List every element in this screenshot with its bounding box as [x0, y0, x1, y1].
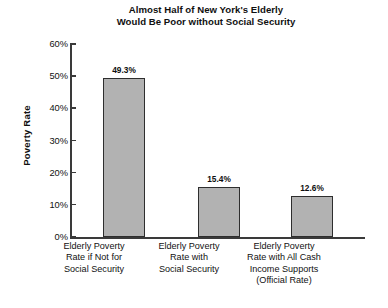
- chart-title-line-1: Almost Half of New York's Elderly: [56, 4, 356, 16]
- bar-2[interactable]: [198, 187, 240, 237]
- y-axis-title: Poverty Rate: [21, 91, 32, 181]
- y-tick-mark-0: [70, 236, 76, 238]
- y-tick-mark-50: [70, 75, 76, 77]
- chart-title-line-2: Would Be Poor without Social Security: [56, 16, 356, 28]
- plot-area: 60% 50% 40% 30% 20% 10% 0% 49.3%: [70, 44, 368, 237]
- y-tick-mark-20: [70, 172, 76, 174]
- y-tick-mark-40: [70, 107, 76, 109]
- y-tick-30: 30%: [34, 135, 76, 147]
- chart-title: Almost Half of New York's Elderly Would …: [56, 4, 356, 27]
- y-tick-label-30: 30%: [49, 135, 68, 147]
- category-3-line-2: Rate with All Cash: [222, 252, 346, 263]
- y-tick-label-60: 60%: [49, 38, 68, 50]
- category-3-line-1: Elderly Poverty: [222, 241, 346, 252]
- y-tick-60: 60%: [34, 38, 76, 50]
- x-axis-line: [70, 237, 365, 239]
- y-tick-label-50: 50%: [49, 70, 68, 82]
- y-tick-10: 10%: [34, 199, 76, 211]
- bar-chart: Almost Half of New York's Elderly Would …: [0, 0, 388, 308]
- bar-value-2: 15.4%: [207, 174, 231, 184]
- y-tick-20: 20%: [34, 167, 76, 179]
- bar-value-1: 49.3%: [112, 65, 136, 75]
- bar-slot-2: 15.4%: [175, 44, 263, 237]
- bar-slot-3: 12.6%: [268, 44, 356, 237]
- y-tick-label-40: 40%: [49, 102, 68, 114]
- bar-3[interactable]: [291, 196, 333, 237]
- y-tick-label-20: 20%: [49, 167, 68, 179]
- y-tick-40: 40%: [34, 102, 76, 114]
- bar-slot-1: 49.3%: [80, 44, 168, 237]
- bar-value-3: 12.6%: [300, 183, 324, 193]
- y-tick-label-10: 10%: [49, 199, 68, 211]
- y-tick-mark-10: [70, 204, 76, 206]
- y-tick-mark-30: [70, 140, 76, 142]
- category-3-line-4: (Official Rate): [222, 275, 346, 286]
- category-label-3: Elderly Poverty Rate with All Cash Incom…: [222, 241, 346, 287]
- y-tick-50: 50%: [34, 70, 76, 82]
- y-tick-mark-60: [70, 43, 76, 45]
- category-3-line-3: Income Supports: [222, 264, 346, 275]
- bar-1[interactable]: [103, 78, 145, 237]
